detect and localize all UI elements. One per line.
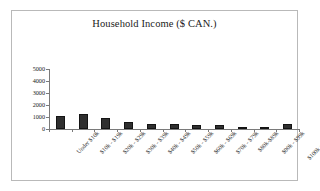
y-axis-line bbox=[49, 69, 50, 129]
y-tick-mark bbox=[46, 81, 49, 82]
bar bbox=[170, 124, 179, 129]
bar bbox=[101, 118, 110, 129]
x-axis-label: $40k - $49k bbox=[167, 130, 192, 155]
y-tick-label: 3000 bbox=[33, 90, 45, 96]
bar bbox=[56, 116, 65, 129]
bar bbox=[260, 127, 269, 129]
bar bbox=[283, 124, 292, 129]
plot-area: 500040003000200010000 bbox=[49, 69, 299, 129]
x-axis-labels: Under $10k$10k - $19k$20k - $29k$30k - $… bbox=[49, 130, 304, 190]
x-axis-label: Under $10k bbox=[76, 130, 101, 155]
chart-figure: Household Income ($ CAN.) 50004000300020… bbox=[0, 0, 311, 191]
y-tick-label: 1000 bbox=[33, 114, 45, 120]
bar bbox=[147, 124, 156, 129]
x-axis-label: $60k - $69k bbox=[212, 130, 237, 155]
bar bbox=[215, 125, 224, 129]
y-tick-mark bbox=[46, 69, 49, 70]
bar bbox=[238, 127, 247, 129]
y-tick-label: 5000 bbox=[33, 66, 45, 72]
y-tick-mark bbox=[46, 93, 49, 94]
y-tick-label: 0 bbox=[42, 126, 45, 132]
chart-border: Household Income ($ CAN.) 50004000300020… bbox=[11, 10, 298, 181]
x-axis-label: $20k - $29k bbox=[121, 130, 146, 155]
x-axis-label: $70k - $79k bbox=[235, 130, 260, 155]
x-axis-label: $50k - $59k bbox=[190, 130, 215, 155]
chart-title: Household Income ($ CAN.) bbox=[12, 18, 297, 29]
y-tick-mark bbox=[46, 117, 49, 118]
x-axis-label: $10k - $19k bbox=[99, 130, 124, 155]
y-tick-label: 4000 bbox=[33, 78, 45, 84]
x-axis-label: $90k - $99k bbox=[281, 130, 306, 155]
x-axis-label: $100k and over bbox=[306, 130, 311, 161]
y-tick-mark bbox=[46, 105, 49, 106]
y-tick-label: 2000 bbox=[33, 102, 45, 108]
x-axis-label: $80k-$89k bbox=[257, 130, 280, 153]
bar bbox=[79, 114, 88, 129]
x-axis-label: $30k - $39k bbox=[144, 130, 169, 155]
bar bbox=[124, 122, 133, 129]
bar bbox=[192, 125, 201, 129]
